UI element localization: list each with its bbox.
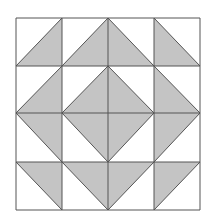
quilt-diagram bbox=[0, 0, 213, 221]
